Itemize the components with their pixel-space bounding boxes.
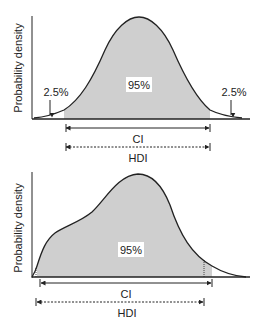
top-shaded-area (64, 17, 210, 119)
top-left-tail-label: 2.5% (43, 86, 68, 98)
bottom-ci-label: CI (121, 288, 132, 300)
top-center-label: 95% (128, 79, 150, 91)
top-chart: Probability density 95% 2.5% 2.5% CI HDI (12, 16, 250, 164)
top-right-tail-label: 2.5% (221, 86, 246, 98)
figure: Probability density 95% 2.5% 2.5% CI HDI… (0, 0, 262, 333)
top-y-axis-label: Probability density (12, 23, 24, 113)
bottom-y-axis-label: Probability density (12, 183, 24, 273)
top-ci-label: CI (133, 133, 144, 145)
bottom-chart: Probability density 95% CI HDI (12, 172, 250, 319)
bottom-center-label: 95% (120, 244, 142, 256)
top-hdi-label: HDI (129, 152, 148, 164)
bottom-shaded-area (37, 174, 212, 277)
bottom-hdi-label: HDI (118, 307, 137, 319)
